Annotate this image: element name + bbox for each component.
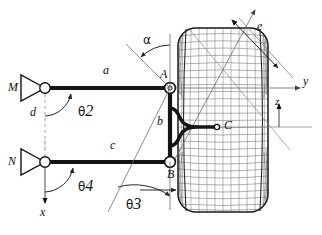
axis-label-x: x xyxy=(40,206,45,218)
theta3-subscript: 3 xyxy=(133,195,141,212)
joint-label-M: M xyxy=(8,81,18,93)
dimension-label-d: d xyxy=(30,106,36,118)
link-label-b: b xyxy=(157,115,163,127)
knuckle-arm-upper xyxy=(170,108,216,127)
pivot-N-circle xyxy=(40,157,50,167)
joint-label-B: B xyxy=(167,168,174,180)
link-label-c: c xyxy=(110,139,115,151)
theta2-subscript: 2 xyxy=(85,102,93,119)
diagonal-down-right xyxy=(190,30,290,150)
theta4-arc xyxy=(45,168,73,192)
wheel-diagonal-construction-lines xyxy=(168,10,293,172)
alpha-diagonal-ref xyxy=(126,44,170,88)
angle-label-alpha: α xyxy=(143,31,151,47)
joint-label-A: A xyxy=(160,68,167,80)
angle-label-theta4: θ4 xyxy=(78,178,93,194)
axis-label-z: z xyxy=(275,96,279,107)
diagonal-up-right xyxy=(168,10,255,172)
link-label-a: a xyxy=(103,64,109,76)
angle-label-theta3: θ3 xyxy=(126,196,141,212)
figure-canvas: M N A B C a c b d e θ2 θ4 θ3 α y z x xyxy=(0,0,322,235)
ground-support-M xyxy=(21,75,50,101)
axis-label-y: y xyxy=(303,75,308,87)
theta4-subscript: 4 xyxy=(85,177,93,194)
dimension-label-e: e xyxy=(257,20,262,32)
ground-support-N xyxy=(21,149,50,175)
point-C-marker xyxy=(214,124,219,129)
angle-side-lines xyxy=(18,34,176,212)
point-label-C: C xyxy=(224,119,232,131)
theta3-slant-ref xyxy=(108,88,170,212)
theta2-arc xyxy=(45,94,71,116)
tire-wireframe xyxy=(177,28,269,212)
knuckle-arm-lower xyxy=(170,127,196,146)
angle-label-theta2: θ2 xyxy=(78,103,93,119)
pivot-M-circle xyxy=(40,83,50,93)
alpha-symbol: α xyxy=(143,33,151,47)
joint-label-N: N xyxy=(8,155,16,167)
